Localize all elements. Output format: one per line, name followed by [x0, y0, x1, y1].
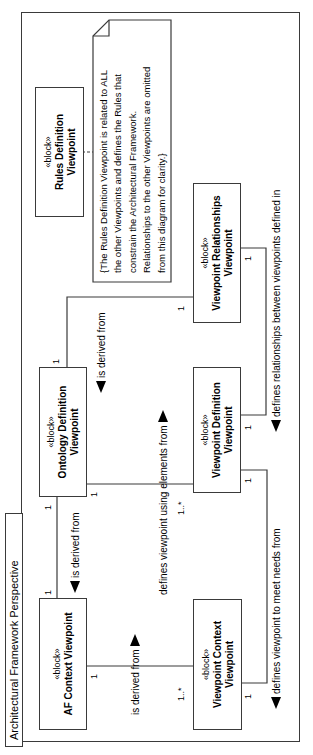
block-af-context-viewpoint: «block» AF Context Viewpoint — [39, 598, 87, 730]
block-viewpoint-definition-viewpoint: «block» Viewpoint Definition Viewpoint — [193, 367, 241, 493]
multiplicity: 1..* — [177, 501, 186, 515]
arrowhead-left-icon — [271, 420, 281, 432]
block-name: AF Context Viewpoint — [63, 599, 75, 729]
block-name: Viewpoint — [223, 184, 235, 322]
block-stereotype: «block» — [200, 600, 212, 729]
multiplicity: 1..* — [177, 687, 186, 701]
multiplicity: 1 — [44, 505, 53, 510]
multiplicity: 1 — [244, 694, 253, 699]
block-viewpoint-relationships-viewpoint: «block» Viewpoint Relationships Viewpoin… — [193, 183, 241, 323]
block-viewpoint-context-viewpoint: «block» Viewpoint Context Viewpoint — [193, 599, 242, 730]
note-comment: {The Rules Definition Viewpoint is relat… — [97, 27, 169, 273]
arrowhead-left-icon — [271, 697, 281, 709]
edge-label-is-derived-from-1: is derived from — [69, 512, 81, 593]
edge-label-text: defines relationships between viewpoints… — [271, 190, 282, 417]
edge-label-text: is derived from — [130, 649, 141, 715]
edge-label-text: defines viewpoint to meet needs from — [271, 528, 282, 694]
edge-definition-context — [239, 470, 267, 683]
edge-relationships-definition — [239, 248, 266, 415]
edge-label-defines-relationships: defines relationships between viewpoints… — [270, 190, 282, 432]
multiplicity: 1 — [244, 478, 253, 483]
note-line: {The Rules Definition Viewpoint is relat… — [97, 27, 111, 273]
block-name: Ontology Definition — [57, 368, 69, 496]
arrowhead-right-icon — [130, 634, 140, 646]
multiplicity: 1 — [244, 425, 253, 430]
multiplicity: 1 — [52, 359, 61, 364]
arrowhead-right-icon — [158, 410, 168, 422]
block-ontology-definition-viewpoint: «block» Ontology Definition Viewpoint — [39, 367, 87, 497]
multiplicity: 1 — [177, 306, 186, 311]
block-name: Viewpoint — [224, 600, 236, 729]
edge-label-defines-viewpoint-to-meet-needs: defines viewpoint to meet needs from — [270, 528, 282, 709]
note-line: the other Viewpoints and defines the Rul… — [111, 27, 125, 273]
edge-label-is-derived-from-2: is derived from — [95, 312, 107, 393]
block-name: Viewpoint — [69, 368, 81, 496]
block-name: Viewpoint — [66, 88, 78, 216]
edge-label-text: defines viewpoint using elements from — [158, 425, 169, 595]
note-line: constrain the Architectural Framework. — [126, 27, 140, 273]
note-line: from this diagram for clarity.} — [155, 27, 169, 273]
edge-label-defines-viewpoint-using-elements: defines viewpoint using elements from — [157, 410, 169, 595]
edge-label-is-derived-from-3: is derived from — [129, 634, 141, 715]
block-rules-definition-viewpoint: «block» Rules Definition Viewpoint — [35, 87, 84, 217]
block-stereotype: «block» — [199, 184, 211, 322]
arrowhead-left-icon — [96, 381, 106, 393]
multiplicity: 1 — [244, 256, 253, 261]
edge-label-text: is derived from — [70, 512, 81, 578]
multiplicity: 1 — [44, 590, 53, 595]
block-stereotype: «block» — [42, 88, 54, 216]
block-name: Rules Definition — [54, 88, 66, 216]
block-name: Viewpoint — [223, 368, 235, 492]
diagram-stage: Architectural Framework Perspective {The… — [0, 0, 313, 755]
edge-ontology-relationships — [67, 297, 193, 369]
block-name: Viewpoint Definition — [211, 368, 223, 492]
block-stereotype: «block» — [45, 368, 57, 496]
multiplicity: 1 — [90, 492, 99, 497]
block-stereotype: «block» — [51, 599, 63, 729]
arrowhead-left-icon — [70, 581, 80, 593]
multiplicity: 1 — [90, 674, 99, 679]
block-name: Viewpoint Relationships — [211, 184, 223, 322]
block-name: Viewpoint Context — [212, 600, 224, 729]
block-stereotype: «block» — [199, 368, 211, 492]
edge-label-text: is derived from — [96, 312, 107, 378]
note-line: Relationships to the other Viewpoints ar… — [140, 27, 154, 273]
